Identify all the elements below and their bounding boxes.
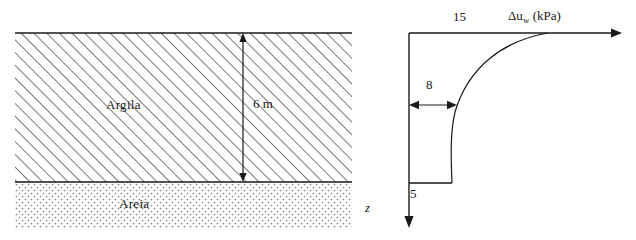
depth-axis-label: z	[365, 200, 370, 216]
horizontal-axis-arrow-icon	[611, 29, 622, 38]
axis-subscript-w: w	[523, 15, 530, 25]
bottom-value-label: 5	[410, 186, 417, 202]
sand-layer-label: Areia	[119, 196, 149, 212]
thickness-dimension-label: 6 m	[253, 96, 273, 112]
pore-pressure-plot: 15 Δuw (kPa) 8 5 z	[352, 0, 636, 240]
mid-dimension-arrow-left-icon	[409, 101, 419, 109]
clay-layer-label: Argila	[106, 97, 141, 113]
figure-root: Argila Areia 6 m 15 Δuw (kPa) 8 5	[0, 0, 636, 240]
pressure-axis-title: Δuw (kPa)	[508, 8, 561, 24]
pressure-plot-svg	[352, 0, 636, 240]
soil-profile-svg	[0, 0, 360, 240]
depth-axis-arrow-icon	[404, 216, 413, 228]
pore-pressure-curve	[451, 33, 548, 183]
axis-units: (kPa)	[533, 8, 561, 23]
sand-layer-fill	[15, 182, 352, 228]
mid-dimension-arrow-right-icon	[447, 101, 457, 109]
clay-layer-fill	[15, 33, 352, 182]
top-value-label: 15	[453, 9, 466, 25]
delta-u-symbol: Δu	[508, 8, 523, 23]
soil-profile-diagram: Argila Areia 6 m	[0, 0, 360, 240]
mid-value-label: 8	[426, 77, 433, 93]
